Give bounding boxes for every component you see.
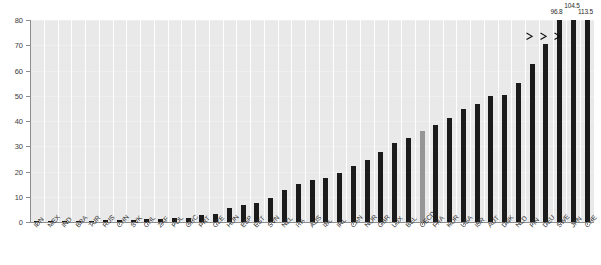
x-tick-mark <box>381 222 382 225</box>
bar <box>502 95 507 222</box>
x-tick-mark <box>37 222 38 225</box>
y-tick-label: 10 <box>15 193 23 202</box>
bar <box>447 118 452 222</box>
axis-break-arrow-icon <box>526 32 533 41</box>
x-tick-mark <box>119 222 120 225</box>
bar <box>323 178 328 222</box>
x-tick-mark <box>64 222 65 225</box>
bar <box>378 152 383 222</box>
x-tick-mark <box>587 222 588 225</box>
x-tick-mark <box>367 222 368 225</box>
x-tick-mark <box>188 222 189 225</box>
x-tick-mark <box>78 222 79 225</box>
x-tick-mark <box>243 222 244 225</box>
axis-break-arrow-icon <box>554 32 561 41</box>
y-tick-label: 50 <box>15 92 23 101</box>
y-tick-label: 80 <box>15 16 23 25</box>
x-tick-mark <box>518 222 519 225</box>
bar <box>585 20 590 222</box>
x-tick-mark <box>202 222 203 225</box>
bar <box>530 64 535 222</box>
x-tick-mark <box>491 222 492 225</box>
x-tick-mark <box>229 222 230 225</box>
y-tick-label: 60 <box>15 67 23 76</box>
bar-oecd-average <box>420 131 425 222</box>
y-tick-label: 20 <box>15 168 23 177</box>
bar <box>571 20 576 222</box>
x-tick-mark <box>92 222 93 225</box>
bar <box>516 83 521 222</box>
x-tick-mark <box>298 222 299 225</box>
y-tick-label: 40 <box>15 117 23 126</box>
x-tick-mark <box>395 222 396 225</box>
x-tick-mark <box>174 222 175 225</box>
x-tick-mark <box>216 222 217 225</box>
x-tick-mark <box>463 222 464 225</box>
x-tick-mark <box>312 222 313 225</box>
bar-value-label: 96.8 <box>551 8 563 15</box>
bar <box>337 173 342 222</box>
bar <box>461 109 466 222</box>
x-tick-mark <box>353 222 354 225</box>
axis-break-arrow-icon <box>540 32 547 41</box>
y-tick-label: 30 <box>15 142 23 151</box>
x-tick-mark <box>51 222 52 225</box>
x-tick-mark <box>546 222 547 225</box>
x-tick-mark <box>106 222 107 225</box>
bar <box>392 143 397 222</box>
y-tick-label: 70 <box>15 41 23 50</box>
bar-chart: 01020304050607080 IDNMEXINDBRATURRUSCHNS… <box>0 0 601 265</box>
bar <box>351 166 356 222</box>
x-tick-mark <box>147 222 148 225</box>
x-tick-mark <box>477 222 478 225</box>
x-tick-mark <box>271 222 272 225</box>
x-tick-mark <box>450 222 451 225</box>
x-tick-mark <box>340 222 341 225</box>
bar <box>488 96 493 222</box>
x-tick-mark <box>532 222 533 225</box>
bar <box>543 44 548 222</box>
bar-value-label: 113.5 <box>578 8 593 15</box>
x-tick-mark <box>573 222 574 225</box>
bar <box>406 138 411 222</box>
x-tick-mark <box>257 222 258 225</box>
x-tick-mark <box>505 222 506 225</box>
bar-series <box>30 20 594 222</box>
x-tick-mark <box>408 222 409 225</box>
bar <box>365 160 370 222</box>
y-tick-label: 0 <box>19 218 23 227</box>
bar <box>475 104 480 222</box>
x-tick-mark <box>436 222 437 225</box>
x-tick-mark <box>422 222 423 225</box>
bar <box>557 20 562 222</box>
x-tick-mark <box>284 222 285 225</box>
bar <box>310 180 315 222</box>
x-tick-mark <box>560 222 561 225</box>
y-tick-mark <box>26 222 30 223</box>
x-tick-mark <box>326 222 327 225</box>
bar <box>433 125 438 222</box>
source-caption <box>232 252 601 263</box>
x-tick-mark <box>161 222 162 225</box>
x-tick-mark <box>133 222 134 225</box>
